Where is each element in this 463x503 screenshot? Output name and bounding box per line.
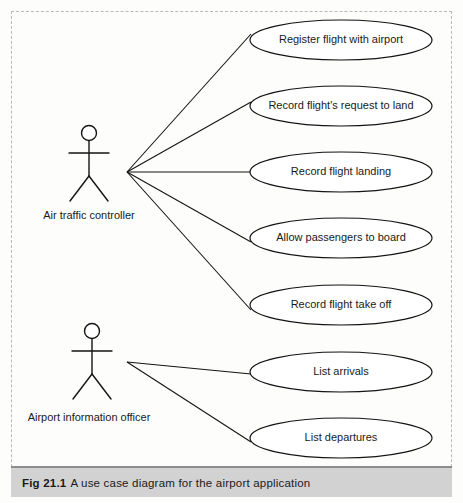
actor-head-icon [82,126,97,141]
assoc-atc-register-flight [127,34,251,172]
use-case-record-flights-request-to-land[interactable]: Record flight's request to land [250,86,432,126]
figure-caption-description: A use case diagram for the airport appli… [70,477,310,489]
actor-head-icon [85,324,100,339]
actor-leg-left [70,176,89,201]
association-lines-group [127,34,251,442]
actor-airport-information-officer: Airport information officer [28,324,151,423]
actor-leg-right [89,176,108,201]
use-case-ellipses-group: Register flight with airportRecord fligh… [250,20,432,458]
use-case-label-allow-passengers-to-board: Allow passengers to board [276,231,406,243]
actor-label-air-traffic-controller: Air traffic controller [43,209,135,221]
use-case-diagram-canvas: Air traffic controllerAirport informatio… [0,0,463,503]
use-case-record-flight-take-off[interactable]: Record flight take off [250,285,432,325]
actor-leg-left [73,374,92,399]
actors-group: Air traffic controllerAirport informatio… [28,126,151,423]
use-case-label-record-flight-landing: Record flight landing [291,165,391,177]
assoc-atc-request-to-land [127,102,251,172]
actor-leg-right [92,374,111,399]
assoc-aio-list-arrivals [127,362,251,374]
use-case-label-list-departures: List departures [305,431,378,443]
assoc-aio-list-departures [127,362,251,442]
use-case-list-departures[interactable]: List departures [250,418,432,458]
assoc-atc-take-off [127,172,251,310]
use-case-label-register-flight-with-airport: Register flight with airport [279,33,403,45]
use-case-label-list-arrivals: List arrivals [313,365,369,377]
use-case-allow-passengers-to-board[interactable]: Allow passengers to board [250,218,432,258]
figure-caption-text: Fig 21.1A use case diagram for the airpo… [22,477,310,489]
use-case-label-record-flights-request-to-land: Record flight's request to land [268,99,413,111]
assoc-atc-allow-board [127,172,251,242]
actor-air-traffic-controller: Air traffic controller [43,126,135,221]
use-case-record-flight-landing[interactable]: Record flight landing [250,152,432,192]
use-case-list-arrivals[interactable]: List arrivals [250,352,432,392]
use-case-register-flight-with-airport[interactable]: Register flight with airport [250,20,432,60]
figure-number: Fig 21.1 [22,477,66,489]
actor-label-airport-information-officer: Airport information officer [28,411,151,423]
use-case-label-record-flight-take-off: Record flight take off [291,298,393,310]
figure-caption-bar: Fig 21.1A use case diagram for the airpo… [11,466,452,497]
figure-page: Air traffic controllerAirport informatio… [0,0,463,503]
